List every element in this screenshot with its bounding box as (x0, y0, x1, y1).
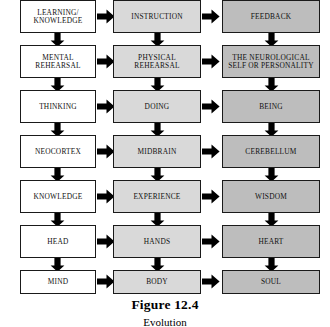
node-label: EXPERIENCE (133, 193, 180, 201)
flowchart-node-instruction: INSTRUCTION (113, 0, 201, 33)
node-label: PHYSICALREHEARSAL (134, 54, 179, 70)
arrow-right-row6-col2-col3 (202, 234, 220, 249)
node-label: HEAD (47, 238, 68, 246)
arrow-right-row1-col2-col3 (202, 9, 220, 24)
arrow-band-4-5 (0, 168, 330, 180)
flowchart-node-hands: HANDS (113, 225, 201, 258)
arrow-right-row3-col2-col3 (202, 99, 220, 114)
node-label: BODY (146, 278, 168, 286)
flowchart-row-3: THINKING DOING BEING (0, 90, 330, 135)
flowchart-node-midbrain: MIDBRAIN (113, 135, 201, 168)
arrow-band-3-4 (0, 123, 330, 135)
flowchart-row-4: NEOCORTEX MIDBRAIN CEREBELLUM (0, 135, 330, 180)
arrow-right-row4-col2-col3 (202, 144, 220, 159)
arrow-right-row5-col2-col3 (202, 189, 220, 204)
arrow-band-5-6 (0, 213, 330, 225)
node-label: CEREBELLUM (245, 148, 296, 156)
node-label: HEART (258, 238, 283, 246)
flowchart-row-2: MENTALREHEARSAL PHYSICALREHEARSAL THE NE… (0, 45, 330, 90)
flowchart-node-knowledge: KNOWLEDGE (20, 180, 96, 213)
node-label: THINKING (39, 103, 77, 111)
flowchart-node-body: BODY (113, 270, 201, 294)
flowchart-node-feedback: FEEDBACK (222, 0, 320, 33)
flowchart-node-neurological-self: THE NEUROLOGICALSELF OR PERSONALITY (222, 45, 320, 78)
arrow-band-2-3 (0, 78, 330, 90)
node-label: MENTALREHEARSAL (35, 54, 80, 70)
node-label: FEEDBACK (251, 13, 292, 21)
flowchart-node-mental-rehearsal: MENTALREHEARSAL (20, 45, 96, 78)
flowchart-node-thinking: THINKING (20, 90, 96, 123)
flowchart-node-experience: EXPERIENCE (113, 180, 201, 213)
node-label: NEOCORTEX (35, 148, 81, 156)
node-label: KNOWLEDGE (33, 193, 82, 201)
flowchart-node-physical-rehearsal: PHYSICALREHEARSAL (113, 45, 201, 78)
figure-caption: Figure 12.4 (0, 297, 330, 313)
figure-caption-subtitle: Evolution (0, 316, 330, 327)
arrow-right-row7-col2-col3 (202, 274, 220, 289)
flowchart-node-mind: MIND (20, 270, 96, 294)
flowchart-node-heart: HEART (222, 225, 320, 258)
flowchart-node-head: HEAD (20, 225, 96, 258)
node-label: MIDBRAIN (138, 148, 177, 156)
flowchart-node-wisdom: WISDOM (222, 180, 320, 213)
flowchart-grid: LEARNING/KNOWLEDGE INSTRUCTION FEEDBACK (0, 0, 330, 304)
flowchart-node-cerebellum: CEREBELLUM (222, 135, 320, 168)
node-label: THE NEUROLOGICALSELF OR PERSONALITY (228, 54, 314, 70)
node-label: MIND (48, 278, 69, 286)
flowchart-node-being: BEING (222, 90, 320, 123)
flowchart-row-1: LEARNING/KNOWLEDGE INSTRUCTION FEEDBACK (0, 0, 330, 45)
node-label: INSTRUCTION (131, 13, 182, 21)
node-label: HANDS (144, 238, 170, 246)
node-label: WISDOM (255, 193, 287, 201)
node-label: SOUL (261, 278, 281, 286)
flowchart-node-neocortex: NEOCORTEX (20, 135, 96, 168)
node-label: LEARNING/KNOWLEDGE (33, 9, 82, 25)
flowchart-node-doing: DOING (113, 90, 201, 123)
arrow-band-6-7 (0, 258, 330, 270)
node-label: DOING (145, 103, 170, 111)
node-label: BEING (259, 103, 283, 111)
flowchart-row-6: HEAD HANDS HEART (0, 225, 330, 270)
flowchart-diagram: LEARNING/KNOWLEDGE INSTRUCTION FEEDBACK (0, 0, 330, 327)
arrow-band-1-2 (0, 33, 330, 45)
arrow-right-row2-col2-col3 (202, 54, 220, 69)
flowchart-row-5: KNOWLEDGE EXPERIENCE WISDOM (0, 180, 330, 225)
flowchart-node-soul: SOUL (222, 270, 320, 294)
flowchart-node-learning-knowledge: LEARNING/KNOWLEDGE (20, 0, 96, 33)
